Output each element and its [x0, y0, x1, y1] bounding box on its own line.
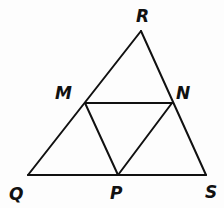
segment-mp: [85, 103, 118, 175]
geometry-figure: R M N Q P S: [0, 0, 224, 208]
midsegment-triangle: [85, 103, 172, 175]
vertex-label-n: N: [176, 83, 190, 103]
vertex-label-r: R: [136, 6, 149, 26]
vertex-label-q: Q: [9, 184, 23, 204]
vertex-label-m: M: [55, 83, 72, 103]
segment-np: [118, 103, 172, 175]
vertex-label-s: S: [205, 182, 217, 202]
vertex-label-p: P: [110, 183, 123, 203]
geometry-canvas: R M N Q P S: [0, 0, 224, 208]
